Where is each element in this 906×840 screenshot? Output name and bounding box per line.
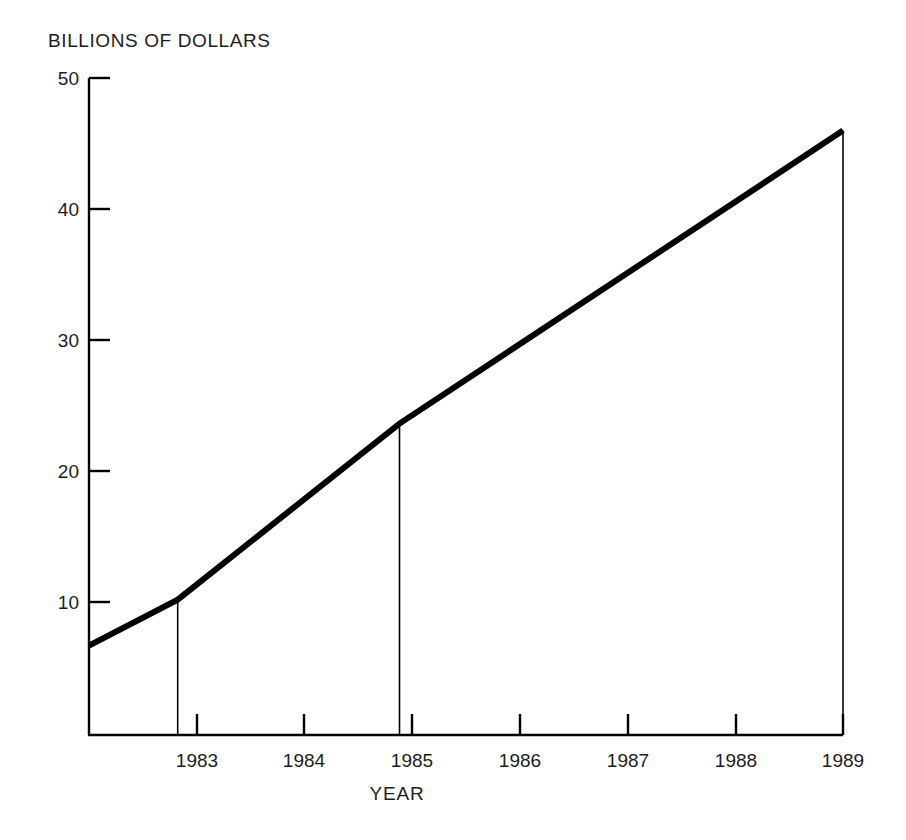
y-axis-tick-labels: 50 40 30 20 10 [58, 68, 79, 613]
chart-figure: BILLIONS OF DOLLARS 50 40 30 20 10 [0, 0, 906, 840]
y-axis-ticks [89, 78, 110, 602]
y-tick-label-40: 40 [58, 199, 79, 220]
x-tick-label-1986: 1986 [499, 750, 541, 771]
x-tick-label-1989: 1989 [822, 750, 864, 771]
x-tick-label-1983: 1983 [176, 750, 218, 771]
data-series-line [89, 131, 843, 646]
x-tick-label-1988: 1988 [715, 750, 757, 771]
x-axis-tick-labels: 1983 1984 1985 1986 1987 1988 1989 [176, 750, 864, 771]
y-tick-label-30: 30 [58, 330, 79, 351]
x-axis-ticks [197, 714, 843, 735]
x-tick-label-1987: 1987 [607, 750, 649, 771]
x-axis-title: YEAR [370, 783, 425, 805]
y-tick-label-50: 50 [58, 68, 79, 89]
x-tick-label-1984: 1984 [283, 750, 326, 771]
chart-plot-area: 50 40 30 20 10 1983 1984 1985 1986 1987 … [0, 0, 906, 840]
data-drop-lines [178, 131, 843, 735]
y-tick-label-10: 10 [58, 592, 79, 613]
y-tick-label-20: 20 [58, 461, 79, 482]
x-tick-label-1985: 1985 [391, 750, 433, 771]
x-axis-title-wrapper: YEAR [0, 783, 906, 805]
